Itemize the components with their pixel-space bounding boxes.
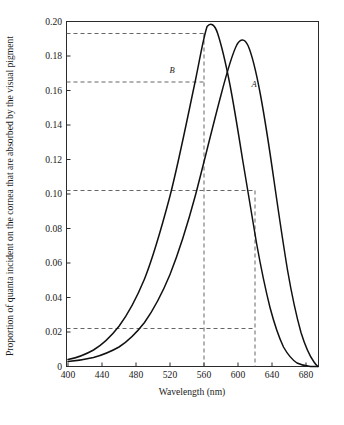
y-tick-label-008: 0.08 <box>45 223 62 234</box>
y-tick-label-020: 0.20 <box>45 16 62 27</box>
absorption-spectrum-chart: 0 0.02 0.04 0.06 0.08 0.10 0.12 0.14 0.1… <box>0 0 344 425</box>
curve-label-a: A <box>250 79 257 89</box>
x-tick-label-400: 400 <box>61 369 76 380</box>
x-tick-label-640: 640 <box>265 369 280 380</box>
y-tick-label-006: 0.06 <box>45 257 62 268</box>
x-tick-label-560: 560 <box>197 369 212 380</box>
y-tick-label-012: 0.12 <box>45 154 62 165</box>
x-tick-label-440: 440 <box>95 369 110 380</box>
figure-container: 0 0.02 0.04 0.06 0.08 0.10 0.12 0.14 0.1… <box>0 0 344 425</box>
x-tick-label-680: 680 <box>299 369 314 380</box>
y-tick-label-004: 0.04 <box>45 292 62 303</box>
x-tick-label-600: 600 <box>231 369 246 380</box>
x-tick-label-520: 520 <box>163 369 178 380</box>
y-tick-label-014: 0.14 <box>45 119 62 130</box>
y-tick-label-016: 0.16 <box>45 85 62 96</box>
x-axis-title: Wavelength (nm) <box>159 386 226 398</box>
curve-label-b: B <box>169 65 174 75</box>
y-tick-label-018: 0.18 <box>45 50 62 61</box>
y-tick-label-010: 0.10 <box>45 188 62 199</box>
chart-background <box>0 0 344 425</box>
y-tick-label-002: 0.02 <box>45 326 62 337</box>
x-tick-label-480: 480 <box>129 369 144 380</box>
y-axis-title: Proportion of quanta incident on the cor… <box>4 36 15 356</box>
